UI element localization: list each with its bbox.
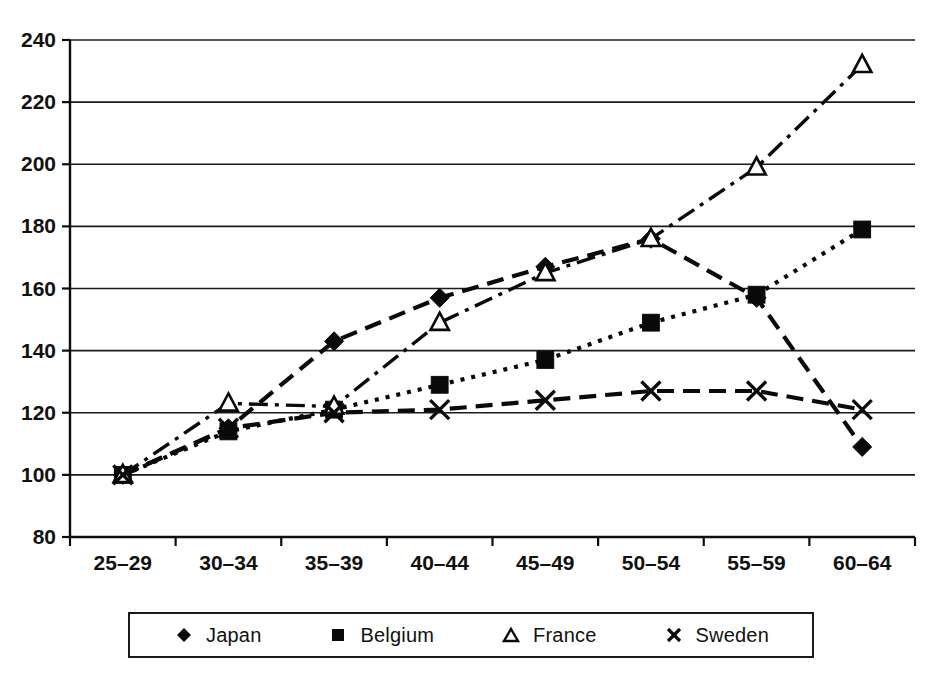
series-france <box>114 55 872 482</box>
legend-item-belgium[interactable]: Belgium <box>327 624 434 647</box>
data-point-marker <box>853 55 871 72</box>
y-axis-tick-label: 220 <box>21 90 56 113</box>
data-point-marker <box>643 314 660 331</box>
gridlines-group <box>70 40 915 475</box>
x-axis-ticks-group <box>70 537 915 546</box>
series-japan <box>113 229 871 484</box>
y-axis-tick-label: 140 <box>21 339 56 362</box>
x-axis-tick-label: 45–49 <box>516 551 574 574</box>
x-axis-tick-label: 30–34 <box>199 551 258 574</box>
series-belgium <box>114 221 870 483</box>
x-axis-tick-label: 40–44 <box>410 551 469 574</box>
filled-diamond-icon <box>173 624 195 646</box>
y-axis-tick-label: 100 <box>21 463 56 486</box>
legend-item-label: Belgium <box>360 624 434 647</box>
data-series-group <box>113 55 871 485</box>
legend-item-label: Japan <box>206 624 262 647</box>
y-axis-tick-label: 200 <box>21 152 56 175</box>
y-axis-tick-label: 120 <box>21 401 56 424</box>
x-axis-tick-label: 25–29 <box>94 551 152 574</box>
x-axis-tick-label: 60–64 <box>833 551 892 574</box>
data-point-marker <box>747 157 765 174</box>
legend-item-japan[interactable]: Japan <box>173 624 262 647</box>
x-axis-tick-label: 35–39 <box>305 551 363 574</box>
legend-item-label: France <box>533 624 596 647</box>
data-point-marker <box>854 221 871 238</box>
legend-item-france[interactable]: France <box>500 624 596 647</box>
legend-item-label: Sweden <box>696 624 769 647</box>
data-point-marker <box>853 437 872 456</box>
chart-legend: JapanBelgiumFranceSweden <box>128 612 814 658</box>
data-point-marker <box>748 286 765 303</box>
legend-item-sweden[interactable]: Sweden <box>663 624 769 647</box>
x-axis-tick-label: 55–59 <box>727 551 785 574</box>
x-axis-tick-label: 50–54 <box>622 551 681 574</box>
cross-x-icon <box>663 624 685 646</box>
filled-square-icon <box>327 624 349 646</box>
line-chart-figure: 80100120140160180200220240 25–2930–3435–… <box>0 0 940 683</box>
y-axis-tick-label: 80 <box>33 525 56 548</box>
y-axis-tick-label: 180 <box>21 214 56 237</box>
data-point-marker <box>537 352 554 369</box>
data-point-marker <box>431 376 448 393</box>
open-triangle-icon <box>500 624 522 646</box>
data-point-marker <box>853 400 872 419</box>
y-axis-tick-label: 160 <box>21 277 56 300</box>
data-point-marker <box>219 393 237 410</box>
data-point-marker <box>430 288 449 307</box>
x-axis-labels-group: 25–2930–3435–3940–4445–4950–5455–5960–64 <box>94 551 892 574</box>
y-axis-labels-group: 80100120140160180200220240 <box>21 28 56 548</box>
y-axis-tick-label: 240 <box>21 28 56 51</box>
chart-plot-area: 80100120140160180200220240 25–2930–3435–… <box>0 0 940 683</box>
